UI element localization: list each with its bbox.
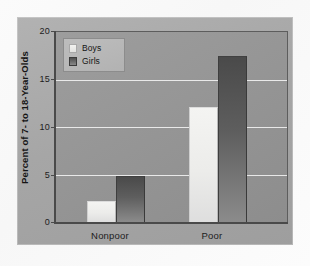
y-tick-label-10: 10 xyxy=(30,123,50,132)
y-axis-line xyxy=(54,31,56,224)
x-axis-line xyxy=(55,222,288,224)
bar-nonpoor-boys xyxy=(87,201,116,222)
bar-nonpoor-girls xyxy=(116,176,145,222)
y-axis-tick-labels: 20 15 10 5 0 xyxy=(30,0,50,266)
legend-item-girls: Girls xyxy=(69,56,120,67)
y-tick-label-20: 20 xyxy=(30,27,50,36)
bar-poor-boys xyxy=(189,107,218,222)
chart-figure: Percent of 7- to 18-Year-Olds 20 15 10 5… xyxy=(0,0,310,266)
boys-swatch-icon xyxy=(69,44,77,53)
gridline-5 xyxy=(56,175,287,176)
chart-legend: Boys Girls xyxy=(63,38,125,72)
y-tick-label-5: 5 xyxy=(30,171,50,180)
bar-poor-girls xyxy=(218,56,247,222)
legend-label-girls: Girls xyxy=(82,57,100,66)
y-tick-label-15: 15 xyxy=(30,75,50,84)
plot-area: Boys Girls xyxy=(55,31,288,223)
gridline-15 xyxy=(56,80,287,81)
girls-swatch-icon xyxy=(69,57,77,66)
y-tick-label-0: 0 xyxy=(30,218,50,227)
x-tick-label-nonpoor: Nonpoor xyxy=(70,230,150,241)
y-axis-title: Percent of 7- to 18-Year-Olds xyxy=(19,33,30,203)
legend-label-boys: Boys xyxy=(82,44,101,53)
legend-item-boys: Boys xyxy=(69,43,120,54)
gridline-10 xyxy=(56,127,287,128)
x-tick-label-poor: Poor xyxy=(172,230,252,241)
